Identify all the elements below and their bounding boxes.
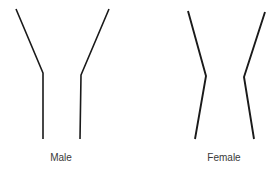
male-left-outline <box>16 9 43 139</box>
female-figure <box>188 11 265 139</box>
male-right-outline <box>80 9 109 139</box>
body-shape-diagram <box>0 0 280 171</box>
male-figure <box>16 9 109 139</box>
female-left-outline <box>188 11 206 139</box>
female-right-outline <box>244 12 265 139</box>
male-label: Male <box>50 152 72 164</box>
female-label: Female <box>207 152 240 164</box>
